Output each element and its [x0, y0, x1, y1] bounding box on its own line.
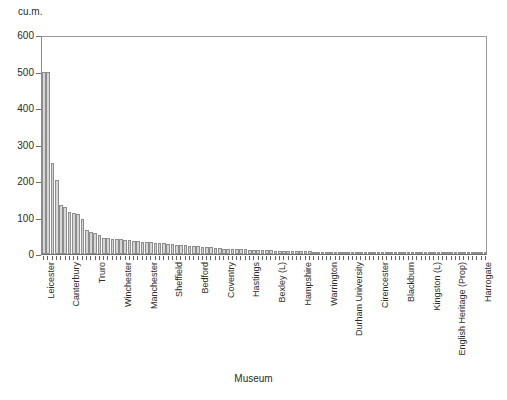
bar: [46, 72, 50, 255]
bar: [462, 252, 466, 254]
x-axis-tick: [176, 256, 177, 260]
x-axis-tick: [399, 256, 400, 260]
x-axis-tick: [438, 256, 439, 260]
x-axis-tick: [313, 256, 314, 260]
x-axis-tick: [155, 256, 156, 260]
bar: [475, 252, 479, 254]
x-axis-tick: [60, 256, 61, 260]
x-axis-tick-label: Hastings: [252, 262, 261, 297]
bar: [179, 245, 183, 254]
bar: [226, 249, 230, 254]
bar: [398, 252, 402, 254]
x-axis-tick-label: Sheffield: [175, 262, 184, 297]
bar: [76, 214, 80, 254]
y-axis-tick: [36, 255, 41, 256]
bar: [304, 251, 308, 254]
y-axis-tick-label: 600: [0, 31, 34, 41]
bar: [205, 247, 209, 254]
bar: [136, 241, 140, 254]
bar: [368, 252, 372, 254]
bar: [342, 252, 346, 254]
bar: [132, 241, 136, 254]
x-axis-tick-label: Coventry: [227, 262, 236, 298]
bar: [154, 243, 158, 254]
x-axis-tick: [382, 256, 383, 260]
x-axis-tick: [219, 256, 220, 260]
bar: [102, 238, 106, 254]
y-axis-unit-label: cu.m.: [18, 6, 42, 17]
x-axis-tick: [408, 256, 409, 260]
x-axis-tick-label: Truro: [98, 262, 107, 283]
x-axis-tick-label: Blackburn: [407, 262, 416, 302]
x-axis-tick: [476, 256, 477, 260]
bar: [355, 252, 359, 254]
x-axis-tick: [283, 256, 284, 260]
bar: [222, 249, 226, 254]
x-axis-tick: [270, 256, 271, 260]
x-axis-tick: [215, 256, 216, 260]
bar: [471, 252, 475, 254]
x-axis-tick: [69, 256, 70, 260]
bar: [402, 252, 406, 254]
x-axis-tick: [82, 256, 83, 260]
bar: [166, 244, 170, 254]
bar: [239, 249, 243, 254]
bar: [346, 252, 350, 254]
x-axis-tick: [352, 256, 353, 260]
x-axis-tick: [103, 256, 104, 260]
x-axis-tick: [416, 256, 417, 260]
x-axis-tick: [326, 256, 327, 260]
y-axis-tick: [36, 36, 41, 37]
x-axis-tick: [137, 256, 138, 260]
x-axis-tick: [172, 256, 173, 260]
bar: [119, 239, 123, 254]
x-axis-tick: [116, 256, 117, 260]
bar: [81, 219, 85, 254]
bar: [42, 72, 46, 255]
x-axis-tick: [142, 256, 143, 260]
x-axis-tick: [193, 256, 194, 260]
x-axis-tick-label: Warrington: [330, 262, 339, 306]
bar: [372, 252, 376, 254]
bar: [72, 213, 76, 254]
x-axis-tick: [292, 256, 293, 260]
x-axis-tick: [421, 256, 422, 260]
bar: [111, 239, 115, 254]
bar: [449, 252, 453, 254]
bar: [295, 251, 299, 254]
bar: [149, 242, 153, 254]
x-axis-tick: [356, 256, 357, 260]
bar: [484, 252, 488, 254]
bar: [458, 252, 462, 254]
x-axis-tick: [249, 256, 250, 260]
bar: [188, 246, 192, 254]
bar: [115, 239, 119, 254]
x-axis-tick-label: Canterbury: [72, 262, 81, 307]
bar: [63, 207, 67, 254]
bars-layer: [42, 37, 486, 254]
x-axis-tick: [129, 256, 130, 260]
bar: [437, 252, 441, 254]
bar: [196, 246, 200, 254]
bar: [89, 232, 93, 254]
bar: [248, 250, 252, 254]
bar: [308, 251, 312, 254]
bar: [364, 252, 368, 254]
bar: [299, 251, 303, 254]
x-axis-tick: [369, 256, 370, 260]
bar: [59, 205, 63, 254]
x-axis-tick: [481, 256, 482, 260]
x-axis-tick: [65, 256, 66, 260]
bar-chart: cu.m. 0100200300400500600 LeicesterCante…: [0, 0, 507, 400]
x-axis-tick: [266, 256, 267, 260]
bar: [51, 163, 55, 254]
bar: [274, 251, 278, 254]
x-axis-tick: [258, 256, 259, 260]
bar: [424, 252, 428, 254]
x-axis-tick: [95, 256, 96, 260]
x-axis-tick-label: Kingston (L): [433, 262, 442, 311]
x-axis-tick: [343, 256, 344, 260]
x-axis-tick: [86, 256, 87, 260]
bar: [145, 242, 149, 254]
bar: [282, 251, 286, 254]
